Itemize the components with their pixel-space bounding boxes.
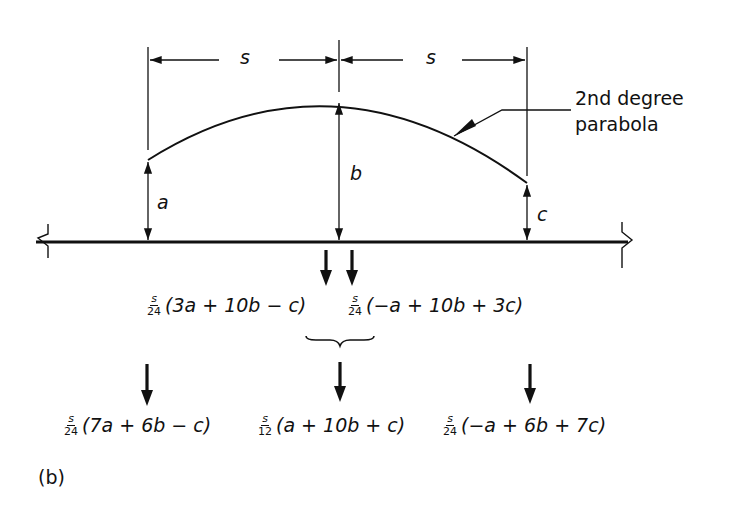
load-arrow-final-right [524, 364, 536, 404]
fraction: s 12 [257, 413, 273, 437]
fraction: s 24 [63, 413, 79, 437]
final-load-middle: s 12 (a + 10b + c) [257, 413, 405, 437]
ordinate-label-b: b [350, 164, 362, 183]
fraction: s 24 [442, 413, 458, 437]
fraction: s 24 [146, 293, 162, 317]
parabola-leader [454, 110, 571, 136]
load-expression: (7a + 6b − c) [82, 416, 211, 435]
intermediate-load-2: s 24 (−a + 10b + 3c) [347, 293, 523, 317]
dimension-label-right: s [426, 48, 436, 67]
panel-label: (b) [38, 468, 65, 487]
final-load-right: s 24 (−a + 6b + 7c) [442, 413, 606, 437]
fraction: s 24 [347, 293, 363, 317]
ordinate-label-a: a [157, 193, 169, 212]
load-expression: (3a + 10b − c) [165, 296, 306, 315]
load-expression: (−a + 6b + 7c) [461, 416, 606, 435]
break-symbol-right [622, 222, 632, 268]
load-arrow-final-middle [334, 362, 346, 402]
combine-brace [306, 336, 374, 346]
final-load-left: s 24 (7a + 6b − c) [63, 413, 211, 437]
load-arrow-final-left [141, 364, 153, 406]
dimension-label-left: s [240, 48, 250, 67]
ordinate-label-c: c [537, 205, 547, 224]
load-arrow-intermediate-2 [346, 250, 358, 286]
curve-label-line1: 2nd degree [575, 89, 684, 108]
intermediate-load-1: s 24 (3a + 10b − c) [146, 293, 306, 317]
load-expression: (−a + 10b + 3c) [366, 296, 523, 315]
parabola-curve [148, 106, 527, 183]
curve-label-line2: parabola [575, 115, 659, 134]
load-arrow-intermediate-1 [320, 250, 332, 286]
load-expression: (a + 10b + c) [276, 416, 405, 435]
